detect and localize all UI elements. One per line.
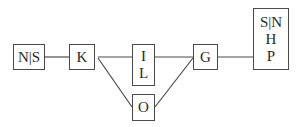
- node-g-label: G: [200, 49, 211, 66]
- node-il-label-2: L: [139, 65, 148, 82]
- diagram-canvas: N|S K I L O G S|N H P: [0, 0, 296, 127]
- node-o: O: [132, 94, 155, 121]
- node-k-label: K: [77, 49, 88, 66]
- edge-o-g: [155, 58, 193, 107]
- node-ns-label: N|S: [18, 49, 40, 66]
- edge-k-o: [98, 58, 132, 107]
- node-ns: N|S: [13, 44, 45, 70]
- node-snhp-label-2: H: [266, 31, 277, 48]
- node-il-label-1: I: [141, 48, 146, 65]
- node-snhp: S|N H P: [253, 8, 289, 70]
- node-il: I L: [132, 44, 155, 86]
- node-k: K: [69, 44, 95, 70]
- node-snhp-label-3: P: [267, 48, 275, 65]
- node-snhp-label-1: S|N: [260, 14, 282, 31]
- node-g: G: [193, 44, 218, 70]
- node-o-label: O: [138, 99, 149, 116]
